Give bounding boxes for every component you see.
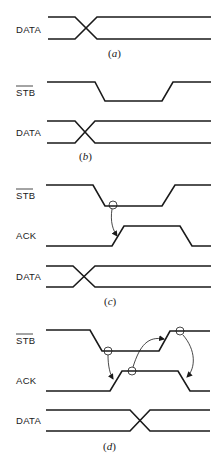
signal-label-ack: ACK xyxy=(16,230,37,241)
signal-label-data: DATA xyxy=(16,415,41,426)
ack-waveform xyxy=(46,226,211,246)
panel-c: STB ACK DATA (c) xyxy=(16,185,211,308)
causal-arrow xyxy=(111,209,117,236)
stb-waveform xyxy=(46,330,210,351)
ack-waveform xyxy=(46,371,210,391)
edge-marker-circle xyxy=(109,201,117,209)
causal-arrow xyxy=(108,355,113,379)
panel-caption-d: (d) xyxy=(103,440,116,453)
signal-label-stb: STB xyxy=(16,87,35,98)
panel-caption-c: (c) xyxy=(104,295,117,308)
panel-caption-a: (a) xyxy=(108,47,121,60)
signal-label-ack: ACK xyxy=(16,375,37,386)
data-bus-waveform xyxy=(47,121,211,143)
panel-caption-b: (b) xyxy=(79,150,92,163)
data-bus-waveform xyxy=(46,266,211,287)
stb-waveform xyxy=(46,185,211,206)
causal-arrow xyxy=(133,338,164,367)
panel-b: STB DATA (b) xyxy=(16,82,211,163)
timing-diagram: DATA (a) STB DATA (b) STB ACK DATA (c xyxy=(0,0,222,463)
signal-label-stb: STB xyxy=(16,190,35,201)
stb-waveform xyxy=(47,82,211,101)
signal-label-data: DATA xyxy=(16,271,41,282)
causal-arrow xyxy=(183,335,193,377)
panel-d: STB ACK DATA (d) xyxy=(16,327,210,453)
panel-a: DATA (a) xyxy=(16,17,211,60)
signal-label-data: DATA xyxy=(16,127,41,138)
signal-label-data: DATA xyxy=(16,24,41,35)
data-bus-waveform xyxy=(46,410,210,431)
data-bus-waveform xyxy=(48,17,211,39)
signal-label-stb: STB xyxy=(16,335,35,346)
